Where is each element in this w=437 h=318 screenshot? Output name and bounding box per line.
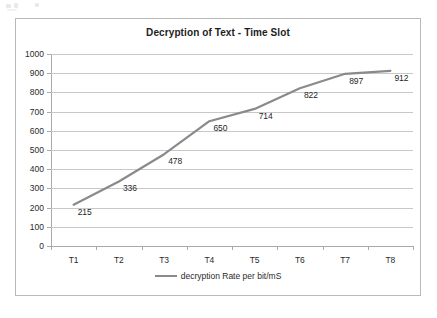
- data-point-label: 714: [259, 111, 273, 121]
- scan-smudge: [6, 4, 11, 8]
- x-axis-tick-label: T1: [69, 255, 79, 265]
- chart-legend: decryption Rate per bit/mS: [16, 271, 420, 281]
- x-axis-tick-label: T2: [114, 255, 124, 265]
- legend-item-label: decryption Rate per bit/mS: [181, 271, 282, 281]
- x-axis-tick: [142, 246, 143, 250]
- x-axis-tick: [187, 246, 188, 250]
- data-point-label: 897: [349, 76, 363, 86]
- x-axis-tick: [323, 246, 324, 250]
- plot-area: 01002003004005006007008009001000 T1T2T3T…: [51, 54, 413, 246]
- chart-title: Decryption of Text - Time Slot: [16, 27, 420, 38]
- y-axis-tick-label: 200: [30, 203, 44, 213]
- legend-line-swatch: [155, 275, 177, 277]
- x-axis-tick-label: T6: [295, 255, 305, 265]
- scan-artifact-smudges: [4, 2, 64, 12]
- x-axis-tick: [96, 246, 97, 250]
- x-axis-tick-label: T8: [385, 255, 395, 265]
- x-axis-tick-label: T7: [340, 255, 350, 265]
- scan-smudge: [14, 3, 18, 8]
- scan-smudge: [7, 9, 17, 11]
- x-axis-tick: [413, 246, 414, 250]
- y-axis-tick-label: 700: [30, 107, 44, 117]
- x-axis-tick: [232, 246, 233, 250]
- y-axis-tick-label: 900: [30, 68, 44, 78]
- data-point-label: 336: [123, 183, 137, 193]
- data-point-label: 478: [168, 156, 182, 166]
- y-axis-tick-label: 600: [30, 126, 44, 136]
- scan-smudge: [35, 3, 39, 7]
- data-point-label: 912: [394, 73, 408, 83]
- y-axis-tick-label: 500: [30, 145, 44, 155]
- x-axis-tick-label: T5: [250, 255, 260, 265]
- x-axis-tick-label: T4: [204, 255, 214, 265]
- y-axis-tick-label: 800: [30, 87, 44, 97]
- x-axis-tick: [277, 246, 278, 250]
- data-point-label: 650: [213, 123, 227, 133]
- x-axis-tick: [51, 246, 52, 250]
- y-axis-tick-label: 100: [30, 222, 44, 232]
- data-point-label: 215: [78, 207, 92, 217]
- data-point-label: 822: [304, 90, 318, 100]
- y-axis-tick-label: 300: [30, 183, 44, 193]
- x-axis-tick-label: T3: [159, 255, 169, 265]
- x-axis-tick: [368, 246, 369, 250]
- y-axis-tick-label: 1000: [25, 49, 44, 59]
- y-axis-tick-label: 0: [39, 241, 44, 251]
- chart-container: Decryption of Text - Time Slot 010020030…: [15, 18, 421, 296]
- y-axis-tick-label: 400: [30, 164, 44, 174]
